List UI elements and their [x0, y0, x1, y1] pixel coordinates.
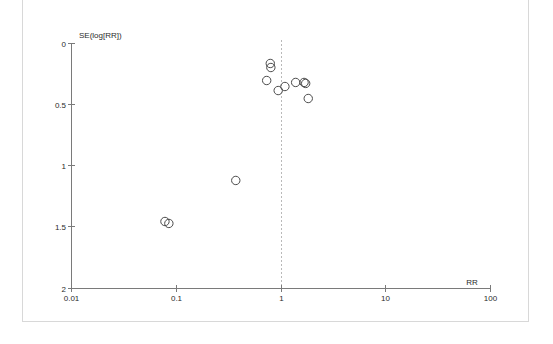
- x-tick-label-10: 10: [381, 294, 390, 303]
- x-tick-label-0p01: 0.01: [64, 294, 80, 303]
- y-tick-label-2: 2: [62, 285, 67, 294]
- y-tick-label-0p5: 0.5: [55, 101, 67, 110]
- x-tick-label-0p1: 0.1: [171, 294, 183, 303]
- study-point: [291, 78, 299, 86]
- x-tick-label-100: 100: [484, 294, 498, 303]
- study-point: [232, 176, 240, 184]
- study-point: [304, 94, 312, 102]
- y-tick-label-0: 0: [62, 40, 67, 49]
- study-point: [281, 82, 289, 90]
- funnel-plot-figure: 0 0.5 1 1.5 2 0.01 0.1 1 10 100 SE(log[R…: [0, 0, 553, 344]
- study-point: [262, 76, 270, 84]
- y-tick-label-1p5: 1.5: [55, 223, 67, 232]
- data-points-layer: [161, 59, 313, 227]
- y-tick-label-1: 1: [62, 162, 67, 171]
- y-axis-title: SE(log[RR]): [79, 31, 122, 40]
- x-tick-label-1: 1: [279, 294, 284, 303]
- x-axis-title: RR: [466, 278, 478, 287]
- funnel-plot-canvas: 0 0.5 1 1.5 2 0.01 0.1 1 10 100 SE(log[R…: [0, 0, 553, 344]
